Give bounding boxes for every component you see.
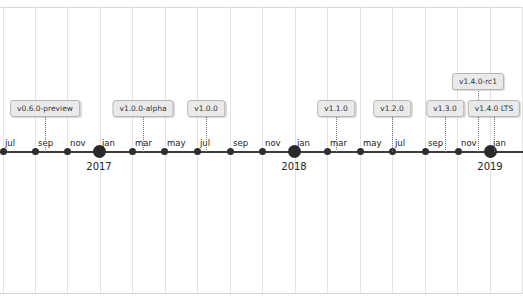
frame-bottom-border (0, 293, 523, 294)
month-label: nov (265, 138, 281, 148)
year-label: 2018 (281, 161, 306, 172)
month-label: jan (102, 138, 115, 148)
month-marker (64, 148, 71, 155)
release-connector (143, 116, 144, 152)
month-label: sep (233, 138, 248, 148)
month-label: jan (297, 138, 310, 148)
month-label: mar (330, 138, 347, 148)
release-connector (45, 116, 46, 152)
month-marker (455, 148, 462, 155)
release-connector (206, 116, 207, 152)
release-timeline: julsepnovjan2017marmayjulsepnovjan2018ma… (0, 0, 523, 300)
month-marker (161, 148, 168, 155)
release-tag: v1.0.0 (187, 100, 225, 117)
month-marker (227, 148, 234, 155)
release-tag: v1.2.0 (373, 100, 411, 117)
month-label: sep (428, 138, 443, 148)
month-label: may (363, 138, 382, 148)
release-connector (494, 116, 495, 152)
month-marker (194, 148, 201, 155)
release-connector (445, 116, 446, 152)
month-label: jul (395, 138, 405, 148)
year-label: 2017 (86, 161, 111, 172)
month-marker (259, 148, 266, 155)
month-marker (324, 148, 331, 155)
release-tag: v1.0.0-alpha (112, 100, 173, 117)
month-label: nov (70, 138, 86, 148)
release-tag: v0.6.0-preview (10, 100, 80, 117)
release-connector (336, 116, 337, 152)
release-tag: v1.4.0 LTS (468, 100, 520, 117)
month-label: jul (5, 138, 15, 148)
release-tag: v1.3.0 (426, 100, 464, 117)
year-label: 2019 (477, 161, 502, 172)
month-marker (0, 148, 7, 155)
release-connector (478, 89, 479, 152)
release-tag: v1.4.0-rc1 (452, 73, 504, 90)
month-marker (357, 148, 364, 155)
month-label: nov (461, 138, 477, 148)
month-marker (129, 148, 136, 155)
release-tag: v1.1.0 (317, 100, 355, 117)
release-connector (392, 116, 393, 152)
month-label: may (167, 138, 186, 148)
month-marker (32, 148, 39, 155)
month-marker (422, 148, 429, 155)
